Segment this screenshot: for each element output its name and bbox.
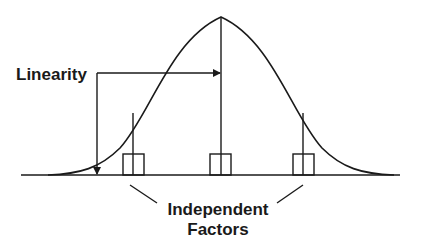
linearity-diagram: Linearity Independent Factors bbox=[0, 0, 432, 247]
factors-pointer-right bbox=[277, 185, 303, 203]
factors-pointer-left bbox=[130, 185, 157, 203]
factors-label-line2: Factors bbox=[187, 220, 248, 239]
factors-label-line1: Independent bbox=[167, 200, 268, 219]
linearity-label: Linearity bbox=[16, 65, 87, 84]
